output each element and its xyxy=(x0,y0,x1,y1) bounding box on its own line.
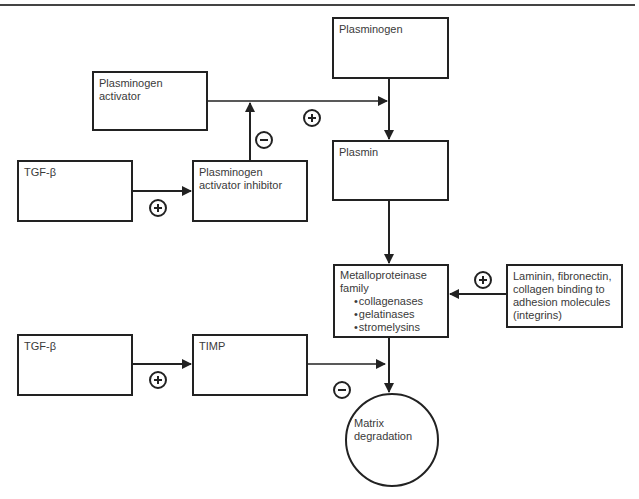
list-item: stromelysins xyxy=(354,321,442,334)
node-plasminogen-activator-inhibitor: Plasminogen activator inhibitor xyxy=(192,160,308,222)
node-label: TIMP xyxy=(199,340,301,353)
plus-sign-icon xyxy=(303,109,321,127)
plus-sign-icon xyxy=(149,199,167,217)
minus-sign-icon xyxy=(255,131,273,149)
plus-sign-icon xyxy=(474,271,492,289)
node-label: TGF-β xyxy=(24,340,126,353)
node-plasminogen: Plasminogen xyxy=(332,17,449,79)
node-plasminogen-activator: Plasminogen activator xyxy=(92,71,208,131)
node-label: Plasminogen xyxy=(339,23,442,36)
list-item: gelatinases xyxy=(354,308,442,321)
node-label: Laminin, fibronectin, collagen binding t… xyxy=(513,270,616,322)
node-metalloproteinase-family: Metalloproteinase family collagenases ge… xyxy=(333,264,449,338)
node-label: TGF-β xyxy=(24,166,126,179)
node-plasmin: Plasmin xyxy=(332,140,449,201)
node-tgf-beta-2: TGF-β xyxy=(17,334,133,396)
node-label: Plasminogen activator inhibitor xyxy=(199,166,301,192)
node-timp: TIMP xyxy=(192,334,308,396)
node-label: Metalloproteinase family xyxy=(340,269,442,295)
minus-sign-icon xyxy=(333,381,351,399)
node-label: Plasminogen activator xyxy=(99,77,201,103)
node-label: Plasmin xyxy=(339,146,442,159)
node-tgf-beta-1: TGF-β xyxy=(17,160,133,222)
node-label: Matrix degradation xyxy=(354,417,437,443)
node-matrix-degradation: Matrix degradation xyxy=(345,393,439,487)
list-item: collagenases xyxy=(354,295,442,308)
metalloproteinase-list: collagenases gelatinases stromelysins xyxy=(340,295,442,334)
plus-sign-icon xyxy=(149,371,167,389)
node-laminin-fibronectin: Laminin, fibronectin, collagen binding t… xyxy=(506,264,623,328)
